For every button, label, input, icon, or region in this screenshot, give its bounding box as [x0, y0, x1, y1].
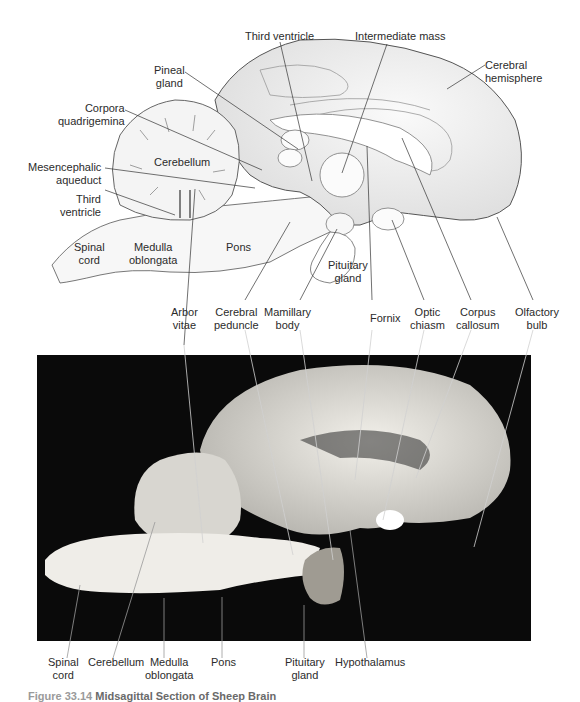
label-pons-photo: Pons	[211, 656, 236, 669]
label-optic-chiasm: Optic chiasm	[410, 306, 445, 332]
label-arbor-vitae: Arbor vitae	[171, 306, 198, 332]
label-mamillary-body: Mamillary body	[264, 306, 311, 332]
label-spinal-cord-photo: Spinal cord	[48, 656, 79, 682]
label-mesencephalic-aqueduct: Mesencephalic aqueduct	[28, 161, 101, 187]
label-spinal-cord-top: Spinal cord	[74, 241, 105, 267]
label-pineal-gland: Pineal gland	[154, 64, 185, 90]
label-pons-top: Pons	[226, 241, 251, 254]
label-third-ventricle-left: Third ventricle	[60, 193, 101, 219]
label-hypothalamus-photo: Hypothalamus	[335, 656, 405, 669]
caption-number: Figure 33.14	[28, 690, 92, 702]
figure-caption: Figure 33.14 Midsagittal Section of Shee…	[28, 690, 276, 702]
label-third-ventricle-top: Third ventricle	[245, 30, 314, 43]
label-corpus-callosum: Corpus callosum	[456, 306, 499, 332]
label-cerebral-peduncle: Cerebral peduncle	[214, 306, 259, 332]
label-corpora-quadrigemina: Corpora quadrigemina	[58, 102, 125, 128]
label-pituitary-gland-photo: Pituitary gland	[285, 656, 325, 682]
label-cerebellum-photo: Cerebellum	[88, 656, 144, 669]
label-pituitary-gland-top: Pituitary gland	[328, 259, 368, 285]
label-cerebellum: Cerebellum	[154, 156, 210, 169]
label-intermediate-mass: Intermediate mass	[355, 30, 445, 43]
label-fornix: Fornix	[370, 312, 401, 325]
label-medulla-oblongata-photo: Medulla oblongata	[145, 656, 193, 682]
caption-title: Midsagittal Section of Sheep Brain	[95, 690, 276, 702]
label-olfactory-bulb: Olfactory bulb	[515, 306, 559, 332]
label-cerebral-hemisphere: Cerebral hemisphere	[485, 59, 542, 85]
label-medulla-oblongata-top: Medulla oblongata	[129, 241, 177, 267]
